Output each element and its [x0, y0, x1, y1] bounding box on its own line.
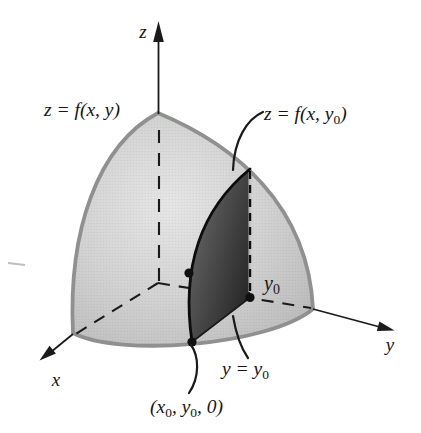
point-y0-on-axis-dot: [245, 293, 254, 302]
z-axis-arrow-icon: [153, 21, 164, 42]
origin-point-label: (x0, y0, 0): [150, 396, 223, 420]
section-equation-end: ): [339, 103, 347, 125]
y0-label-subscript: 0: [273, 282, 280, 297]
leader-origin-point: [189, 345, 197, 393]
origin-point-p1: (x: [150, 396, 165, 418]
figure-container: z x y z = f(x, y) z = f(x, y0) y0 y = y0…: [0, 0, 421, 433]
x-axis-line: [51, 334, 73, 352]
surface-cross-section-figure: z x y z = f(x, y) z = f(x, y0) y0 y = y0…: [0, 0, 421, 433]
plane-equation-subscript: 0: [262, 367, 269, 382]
plane-equation-label: y = y0: [220, 358, 269, 382]
y-axis-label: y: [384, 334, 395, 355]
origin-point-p2: , y: [172, 396, 191, 417]
plane-equation-main: y = y: [220, 358, 263, 379]
y-axis-arrow-icon: [377, 321, 395, 331]
x-axis-label: x: [51, 369, 61, 390]
point-on-curve-dot: [184, 268, 193, 277]
z-axis-label: z: [138, 21, 147, 42]
x-axis-arrow-icon: [40, 346, 56, 361]
origin-point-p3: , 0): [197, 396, 223, 418]
section-equation-label: z = f(x, y0): [263, 103, 347, 127]
surface-equation-label: z = f(x, y): [43, 99, 120, 121]
y-axis-line: [313, 309, 380, 327]
y0-label-main: y: [262, 272, 273, 295]
print-artifact: [8, 263, 25, 265]
section-equation-main: z = f(x, y: [263, 103, 334, 125]
